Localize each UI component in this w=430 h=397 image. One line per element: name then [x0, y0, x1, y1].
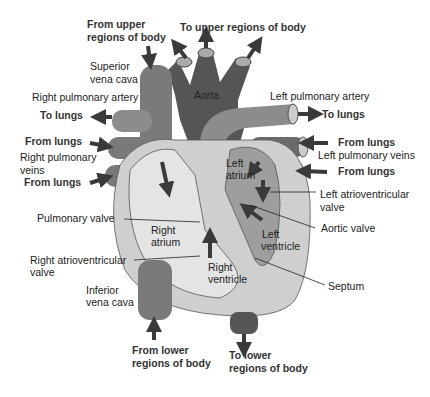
label-right-ventricle: Right [208, 261, 233, 273]
label-left-pulm-veins: Left pulmonary veins [318, 149, 415, 161]
label-superior-vc: Superior [90, 60, 130, 72]
label-left-atrium: Left [226, 157, 244, 169]
label-aorta: Aorta [194, 89, 219, 101]
label-septum: Septum [328, 280, 364, 292]
label-superior-vc-2: vena cava [90, 73, 138, 85]
label-right-av-valve: Right atrioventricular [30, 254, 127, 266]
label-to-lower: To lower [229, 349, 271, 361]
label-left-av-valve: Left atrioventricular [320, 188, 410, 200]
label-to-lower-2: regions of body [229, 362, 308, 374]
label-right-pulm-artery: Right pulmonary artery [32, 91, 139, 103]
label-from-lungs-r2: From lungs [338, 165, 395, 177]
label-right-av-valve-2: valve [30, 266, 55, 278]
label-right-pulm-veins: Right pulmonary [20, 151, 97, 163]
label-pulmonary-valve: Pulmonary valve [37, 212, 115, 224]
descending-aorta [230, 312, 258, 334]
label-from-lower: From lower [132, 344, 189, 356]
label-from-upper-2: regions of body [87, 31, 166, 43]
label-from-lungs-l1: From lungs [25, 135, 82, 147]
label-left-pulm-artery: Left pulmonary artery [270, 90, 370, 102]
label-left-av-valve-2: valve [320, 201, 345, 213]
label-aortic-valve: Aortic valve [321, 222, 375, 234]
label-to-upper: To upper regions of body [180, 21, 306, 33]
label-left-ventricle: Left [262, 228, 280, 240]
label-right-ventricle-2: ventricle [208, 273, 247, 285]
label-right-atrium: Right [151, 224, 176, 236]
label-to-lungs-right: To lungs [322, 108, 365, 120]
label-from-lower-2: regions of body [132, 357, 211, 369]
label-inferior-vc: Inferior [86, 284, 119, 296]
label-left-atrium-2: atrium [226, 169, 255, 181]
label-from-lungs-l2: From lungs [24, 176, 81, 188]
label-inferior-vc-2: vena cava [86, 296, 134, 308]
inferior-vena-cava [138, 260, 172, 320]
label-to-lungs-left: To lungs [40, 109, 83, 121]
label-right-atrium-2: atrium [151, 236, 180, 248]
label-right-pulm-veins-2: veins [20, 164, 45, 176]
label-left-ventricle-2: ventricle [261, 240, 300, 252]
label-from-lungs-r1: From lungs [338, 136, 395, 148]
heart-diagram: From upper regions of body To upper regi… [0, 0, 430, 397]
label-from-upper: From upper [87, 18, 145, 30]
